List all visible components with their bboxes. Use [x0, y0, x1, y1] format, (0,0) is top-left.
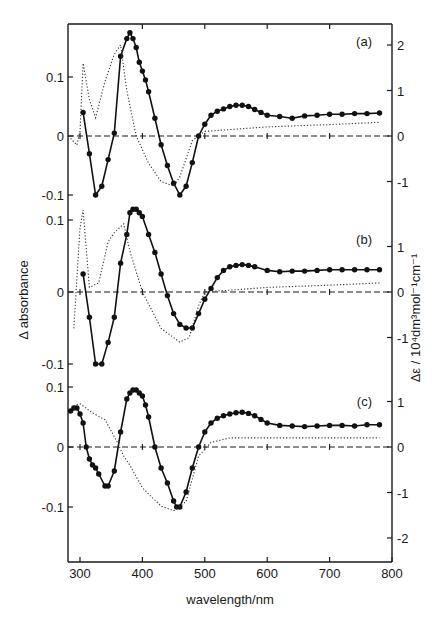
- right-tick-label: 0: [397, 285, 404, 300]
- data-point: [112, 315, 117, 320]
- left-y-axis-title: Δ absorbance: [16, 260, 31, 340]
- data-point: [124, 396, 129, 401]
- right-tick-label: -1: [397, 486, 409, 501]
- data-point: [140, 393, 145, 398]
- data-point: [171, 498, 176, 503]
- data-point: [215, 416, 220, 421]
- data-point: [183, 184, 188, 189]
- data-point: [134, 45, 139, 50]
- data-point: [352, 111, 357, 116]
- data-point: [227, 264, 232, 269]
- data-point: [240, 103, 245, 108]
- left-tick-label: 0: [57, 285, 64, 300]
- data-point: [196, 133, 201, 138]
- data-point: [171, 311, 176, 316]
- data-point: [227, 411, 232, 416]
- data-point: [105, 157, 110, 162]
- x-tick-label: 800: [381, 566, 403, 581]
- data-point: [208, 420, 213, 425]
- data-point: [87, 315, 92, 320]
- data-point: [158, 271, 163, 276]
- data-point: [96, 471, 101, 476]
- left-tick-label: -0.1: [42, 188, 64, 203]
- data-point: [143, 402, 148, 407]
- data-point: [277, 269, 282, 274]
- data-point: [93, 465, 98, 470]
- right-tick-label: -1: [397, 331, 409, 346]
- data-point: [246, 104, 251, 109]
- data-point: [146, 414, 151, 419]
- data-point: [124, 36, 129, 41]
- data-point: [302, 268, 307, 273]
- data-point: [377, 422, 382, 427]
- data-point: [314, 423, 319, 428]
- data-point: [130, 36, 135, 41]
- left-tick-label: 0.1: [46, 380, 64, 395]
- data-point: [339, 423, 344, 428]
- data-point: [137, 60, 142, 65]
- data-point: [177, 192, 182, 197]
- data-point: [202, 297, 207, 302]
- x-axis-title: wavelength/nm: [185, 592, 273, 607]
- delta-absorbance-line: [71, 390, 380, 507]
- data-point: [87, 151, 92, 156]
- data-point: [84, 444, 89, 449]
- delta-absorbance-line: [83, 33, 379, 195]
- right-tick-label: -1: [397, 175, 409, 190]
- right-y-axis-title: Δε / 10⁴dm³mol⁻¹cm⁻¹: [408, 253, 423, 382]
- panel-label: (a): [356, 34, 372, 49]
- panel-a: 0.10-0.1210-1(a): [42, 30, 409, 203]
- data-point: [314, 268, 319, 273]
- data-point: [302, 113, 307, 118]
- data-point: [93, 192, 98, 197]
- data-point: [215, 275, 220, 280]
- data-point: [246, 263, 251, 268]
- data-point: [221, 413, 226, 418]
- data-point: [364, 422, 369, 427]
- data-point: [140, 68, 145, 73]
- data-point: [87, 456, 92, 461]
- data-point: [233, 103, 238, 108]
- data-point: [158, 142, 163, 147]
- left-tick-label: 0: [57, 129, 64, 144]
- right-tick-label: 0: [397, 440, 404, 455]
- right-tick-label: 0: [397, 129, 404, 144]
- data-point: [240, 262, 245, 267]
- data-point: [215, 109, 220, 114]
- data-point: [80, 271, 85, 276]
- data-point: [240, 410, 245, 415]
- data-point: [146, 89, 151, 94]
- data-point: [290, 116, 295, 121]
- data-point: [208, 113, 213, 118]
- data-point: [202, 122, 207, 127]
- left-tick-label: -0.1: [42, 357, 64, 372]
- left-tick-label: 0: [57, 440, 64, 455]
- data-point: [258, 110, 263, 115]
- left-tick-label: -0.1: [42, 500, 64, 515]
- data-point: [265, 268, 270, 273]
- data-point: [146, 232, 151, 237]
- data-point: [127, 30, 132, 35]
- data-point: [252, 107, 257, 112]
- data-point: [112, 468, 117, 473]
- data-point: [246, 411, 251, 416]
- data-point: [152, 250, 157, 255]
- data-point: [140, 214, 145, 219]
- data-point: [183, 325, 188, 330]
- x-tick-label: 700: [319, 566, 341, 581]
- panel-c: 0.10-0.110-1-2(c): [42, 380, 409, 546]
- data-point: [258, 417, 263, 422]
- data-point: [105, 483, 110, 488]
- data-point: [208, 286, 213, 291]
- data-point: [314, 113, 319, 118]
- data-point: [352, 267, 357, 272]
- data-point: [93, 361, 98, 366]
- data-point: [327, 112, 332, 117]
- data-point: [221, 268, 226, 273]
- data-point: [152, 116, 157, 121]
- data-point: [158, 465, 163, 470]
- data-point: [177, 322, 182, 327]
- delta-epsilon-dotted-line: [71, 45, 380, 186]
- data-point: [143, 77, 148, 82]
- data-point: [112, 130, 117, 135]
